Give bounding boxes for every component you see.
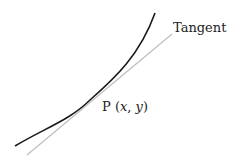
point-label-prefix: P ( (102, 99, 120, 114)
point-label-suffix: ) (143, 99, 148, 114)
tangent-label: Tangent (173, 20, 226, 35)
point-label: P (x, y) (102, 99, 148, 114)
tangent-line (27, 34, 172, 155)
point-label-y: y (136, 99, 143, 114)
point-label-sep: , (127, 99, 135, 114)
curve (15, 13, 155, 146)
